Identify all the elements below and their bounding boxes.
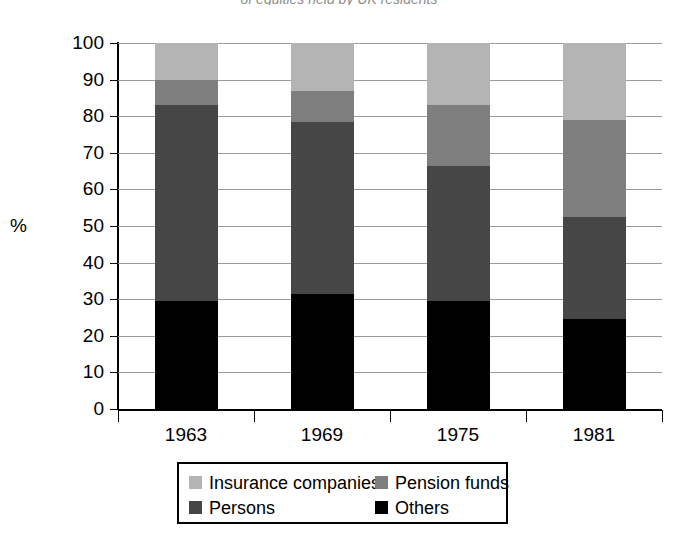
legend-swatch-icon <box>375 501 388 514</box>
chart-legend: Insurance companiesPension fundsPersonsO… <box>177 462 508 524</box>
bar-segment[interactable] <box>155 43 218 80</box>
x-axis-tick <box>662 410 663 422</box>
bar-segment[interactable] <box>291 43 354 91</box>
bar-segment[interactable] <box>563 43 626 120</box>
x-axis-tick <box>526 410 527 422</box>
x-axis-tick <box>118 410 119 422</box>
bar-group <box>427 43 490 409</box>
legend-swatch-icon <box>375 476 388 489</box>
bar-segment[interactable] <box>563 217 626 319</box>
y-axis-tick-label: 90 <box>40 70 104 89</box>
y-axis-tick-label: 60 <box>40 179 104 198</box>
legend-item[interactable]: Pension funds <box>375 473 509 493</box>
chart-figure: of equities held by UK residents 1009080… <box>0 0 678 550</box>
bar-segment[interactable] <box>291 122 354 294</box>
bar-segment[interactable] <box>563 319 626 409</box>
bar-group <box>291 43 354 409</box>
clipped-caption: of equities held by UK residents <box>0 0 678 5</box>
bar-segment[interactable] <box>427 301 490 409</box>
stacked-bar[interactable] <box>291 43 354 409</box>
bar-group <box>155 43 218 409</box>
stacked-bar[interactable] <box>563 43 626 409</box>
stacked-bar[interactable] <box>155 43 218 409</box>
legend-item[interactable]: Others <box>375 498 449 518</box>
legend-swatch-icon <box>189 476 202 489</box>
bar-segment[interactable] <box>427 43 490 105</box>
y-axis-tick-label: 0 <box>40 399 104 418</box>
y-axis-tick-label: 80 <box>40 106 104 125</box>
y-axis-tick-label: 40 <box>40 253 104 272</box>
x-axis-category-label: 1975 <box>398 424 518 446</box>
legend-item[interactable]: Persons <box>189 498 375 518</box>
x-axis-category-label: 1969 <box>262 424 382 446</box>
bar-segment[interactable] <box>291 91 354 122</box>
bar-segment[interactable] <box>155 301 218 409</box>
legend-row: Insurance companiesPension funds <box>189 470 506 495</box>
y-axis-tick-label: 70 <box>40 143 104 162</box>
y-axis-title: % <box>10 216 27 235</box>
y-axis-tick-label: 10 <box>40 362 104 381</box>
x-axis-category-label: 1981 <box>534 424 654 446</box>
bar-segment[interactable] <box>155 105 218 301</box>
x-axis-tick <box>390 410 391 422</box>
y-axis-tick-label: 50 <box>40 216 104 235</box>
bar-segment[interactable] <box>427 166 490 301</box>
x-axis-tick <box>254 410 255 422</box>
bar-segment[interactable] <box>291 294 354 409</box>
x-axis-category-label: 1963 <box>126 424 246 446</box>
y-axis-tick-label: 30 <box>40 289 104 308</box>
legend-body: Insurance companiesPension fundsPersonsO… <box>189 470 506 520</box>
legend-label: Persons <box>209 498 275 518</box>
plot-area <box>118 43 662 409</box>
legend-item[interactable]: Insurance companies <box>189 473 375 493</box>
legend-swatch-icon <box>189 501 202 514</box>
y-axis-tick-label: 20 <box>40 326 104 345</box>
legend-row: PersonsOthers <box>189 495 506 520</box>
bar-segment[interactable] <box>427 105 490 165</box>
legend-label: Others <box>395 498 449 518</box>
bar-segment[interactable] <box>155 80 218 106</box>
y-axis-tick-label: 100 <box>40 33 104 52</box>
bar-group <box>563 43 626 409</box>
legend-label: Insurance companies <box>209 473 380 493</box>
bar-segment[interactable] <box>563 120 626 217</box>
legend-label: Pension funds <box>395 473 509 493</box>
stacked-bar[interactable] <box>427 43 490 409</box>
